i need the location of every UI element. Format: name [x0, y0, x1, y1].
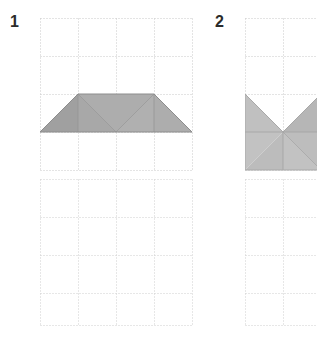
grid-lines-answer-1: [41, 180, 193, 326]
answer-grid-2[interactable]: [245, 179, 317, 326]
answer-grid-1[interactable]: [40, 179, 193, 326]
trapezoid-with-fold-lines[interactable]: [40, 94, 192, 132]
exercise-number-1: 1: [10, 14, 19, 30]
exercise-number-2: 2: [215, 14, 224, 30]
grid-lines-answer-2: [246, 180, 318, 326]
worksheet: 1: [0, 0, 317, 350]
figure-grid-2[interactable]: [245, 18, 317, 171]
exercise-2: 2: [205, 0, 317, 350]
exercise-1: 1: [0, 0, 205, 350]
square-with-v-notch[interactable]: [245, 94, 317, 170]
figure-grid-1[interactable]: [40, 18, 193, 171]
